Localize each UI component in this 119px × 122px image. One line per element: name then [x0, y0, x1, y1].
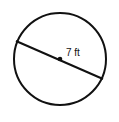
diameter-label: 7 ft — [66, 47, 80, 58]
center-point — [58, 57, 63, 62]
circle-diagram: 7 ft — [0, 0, 119, 122]
